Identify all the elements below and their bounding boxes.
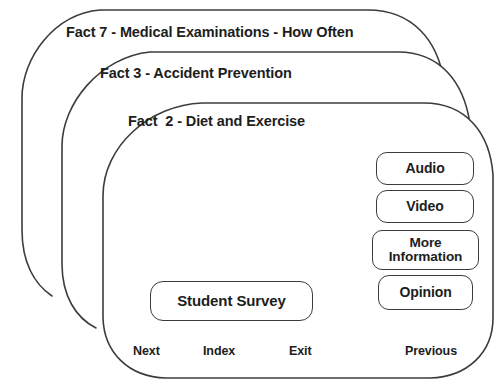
nav-exit-button[interactable]: Exit xyxy=(289,344,312,358)
audio-button-label: Audio xyxy=(405,161,444,175)
video-button-label: Video xyxy=(406,199,443,213)
opinion-button[interactable]: Opinion xyxy=(378,275,473,310)
more-information-button-label: More Information xyxy=(389,236,463,264)
student-survey-button-label: Student Survey xyxy=(177,293,286,308)
nav-index-button[interactable]: Index xyxy=(203,344,235,358)
card-stack-stage: Fact 7 - Medical Examinations - How Ofte… xyxy=(0,0,502,387)
nav-next-button[interactable]: Next xyxy=(133,344,160,358)
video-button[interactable]: Video xyxy=(376,190,474,223)
more-information-button-label-line-2: Information xyxy=(389,250,463,264)
card-title-fact-2: Fact 2 - Diet and Exercise xyxy=(128,113,305,129)
nav-previous-button[interactable]: Previous xyxy=(405,344,457,358)
opinion-button-label: Opinion xyxy=(399,285,451,299)
card-title-fact-7: Fact 7 - Medical Examinations - How Ofte… xyxy=(66,24,354,40)
card-title-fact-3: Fact 3 - Accident Prevention xyxy=(100,65,292,81)
student-survey-button[interactable]: Student Survey xyxy=(150,281,313,321)
more-information-button-label-line-1: More xyxy=(389,236,463,250)
more-information-button[interactable]: More Information xyxy=(372,230,479,270)
audio-button[interactable]: Audio xyxy=(376,152,474,185)
